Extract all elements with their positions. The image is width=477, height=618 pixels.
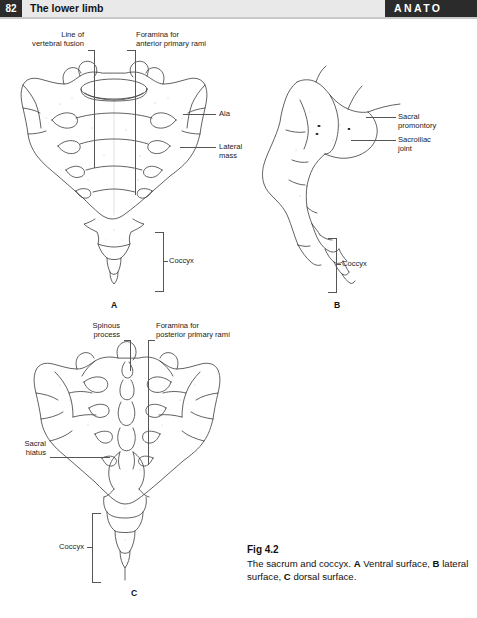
label-coccyx-c: Coccyx — [40, 543, 84, 552]
figure-caption-part-1: The sacrum and coccyx. — [247, 558, 354, 569]
header-title: The lower limb — [30, 0, 104, 17]
figure-artwork — [0, 0, 477, 618]
leader-foramina-ant-v — [135, 55, 136, 195]
figure-letter-a: A — [111, 300, 117, 310]
figure-caption-letter-a: A — [354, 558, 361, 569]
label-sacroiliac-joint: Sacroiliac joint — [398, 136, 472, 154]
leader-coccyx-c — [87, 547, 92, 548]
label-coccyx-b: Coccyx — [342, 260, 386, 269]
label-sacral-hiatus: Sacral hiatus — [8, 440, 46, 458]
leader-coccyx-a — [163, 261, 168, 262]
label-coccyx-a: Coccyx — [169, 257, 213, 266]
label-foramina-posterior-primary-rami: Foramina for posterior primary rami — [156, 322, 256, 340]
figure-caption-part-4: dorsal surface. — [291, 571, 357, 582]
leader-spinous-v — [130, 345, 131, 371]
page-number: 82 — [0, 0, 22, 17]
leader-foramina-ant-h — [127, 50, 135, 51]
leader-vertebral-fusion-v — [94, 55, 95, 168]
leader-coccyx-b — [336, 264, 341, 265]
figure-caption-letter-c: C — [284, 571, 291, 582]
leader-foramina-post-v — [148, 345, 149, 465]
bracket-coccyx-c — [92, 513, 101, 583]
figure-caption-letter-b: B — [433, 558, 440, 569]
running-header: 82 The lower limb ANATO — [0, 0, 477, 19]
label-foramina-anterior-primary-rami: Foramina for anterior primary rami — [136, 31, 232, 49]
figure-caption-part-2: Ventral surface, — [361, 558, 433, 569]
sacrum-ventral-drawing — [21, 61, 207, 284]
header-rule — [0, 17, 477, 19]
label-spinous-process: Spinous process — [68, 322, 120, 340]
leader-lateral-mass — [180, 147, 216, 148]
leader-sacroiliac-joint — [351, 140, 396, 141]
label-lateral-mass: Lateral mass — [219, 143, 263, 161]
header-section-label: ANATO — [385, 0, 477, 17]
leader-sacral-hiatus — [50, 457, 110, 458]
leader-sacral-promontory — [366, 117, 396, 118]
figure-letter-c: C — [131, 588, 137, 598]
label-sacral-promontory: Sacral promontory — [398, 113, 472, 131]
label-ala: Ala — [219, 110, 259, 119]
leader-foramina-post-h — [148, 340, 155, 341]
label-line-of-vertebral-fusion: Line of vertebral fusion — [10, 31, 84, 49]
bracket-coccyx-b — [328, 238, 337, 293]
bracket-coccyx-a — [155, 232, 164, 292]
figure-caption: Fig 4.2 The sacrum and coccyx. A Ventral… — [247, 543, 475, 584]
leader-ala — [183, 114, 216, 115]
figure-caption-title: Fig 4.2 — [247, 543, 475, 556]
figure-letter-b: B — [334, 300, 340, 310]
